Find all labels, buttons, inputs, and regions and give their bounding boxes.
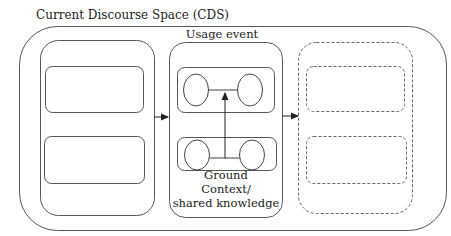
ground-label: Ground <box>204 168 248 182</box>
upper-left-node <box>184 74 209 106</box>
upper-right-node <box>238 74 263 106</box>
ground-right-node <box>240 140 265 170</box>
next-event-upper-box <box>307 67 405 112</box>
next-event-box <box>299 43 413 214</box>
diagram-title: Current Discourse Space (CDS) <box>36 8 229 22</box>
previous-event-upper-box <box>46 67 144 113</box>
context-label-line1: Context/ <box>201 182 251 196</box>
next-event-lower-box <box>307 137 407 184</box>
previous-event-lower-box <box>45 137 145 184</box>
usage-event-label: Usage event <box>186 27 259 41</box>
ground-box <box>178 138 277 171</box>
context-label-line2: shared knowledge <box>173 196 280 210</box>
ground-left-node <box>185 140 210 170</box>
cds-diagram: Current Discourse Space (CDS) Usage even… <box>0 0 451 236</box>
